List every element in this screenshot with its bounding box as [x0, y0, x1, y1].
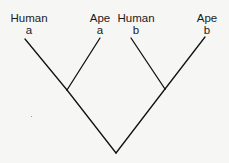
- tip-name: Human: [111, 12, 161, 24]
- scan-speck: [31, 116, 32, 117]
- tip-name: Ape: [182, 12, 229, 24]
- tip-name: Human: [4, 12, 54, 24]
- branch-clade-b-to-root: [116, 89, 165, 153]
- branch-ape-b: [165, 37, 205, 89]
- branch-human-a: [25, 39, 67, 90]
- branch-human-b: [131, 38, 165, 89]
- tip-label-human-b: Human b: [111, 12, 161, 36]
- branch-ape-a: [67, 38, 100, 90]
- branch-clade-a-to-root: [67, 90, 116, 153]
- tip-sublabel: b: [111, 24, 161, 36]
- tip-sublabel: a: [4, 24, 54, 36]
- phylogenetic-tree-diagram: Human a Ape a Human b Ape b: [0, 0, 229, 163]
- tip-label-human-a: Human a: [4, 12, 54, 36]
- tip-label-ape-b: Ape b: [182, 12, 229, 36]
- tip-sublabel: b: [182, 24, 229, 36]
